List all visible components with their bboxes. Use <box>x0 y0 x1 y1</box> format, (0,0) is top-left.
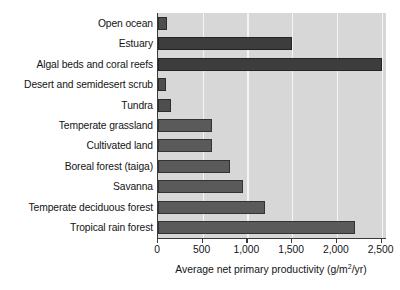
category-label: Desert and semidesert scrub <box>0 79 153 90</box>
x-axis: 05001,0001,5002,0002,500 <box>157 239 385 261</box>
category-label: Tropical rain forest <box>0 222 153 233</box>
bar-chart-figure: Open oceanEstuaryAlgal beds and coral re… <box>0 0 400 290</box>
x-tick-mark <box>291 239 292 243</box>
bar <box>158 139 212 152</box>
bar <box>158 201 265 214</box>
x-axis-title: Average net primary productivity (g/m2/y… <box>157 263 385 276</box>
bars-layer <box>158 13 386 238</box>
plot-area <box>157 13 386 239</box>
category-label: Cultivated land <box>0 140 153 151</box>
bar <box>158 17 167 30</box>
bar <box>158 221 355 234</box>
category-label: Open ocean <box>0 18 153 29</box>
category-label: Estuary <box>0 38 153 49</box>
category-label: Tundra <box>0 100 153 111</box>
category-label: Boreal forest (taiga) <box>0 161 153 172</box>
x-tick-label: 1,500 <box>266 244 316 256</box>
category-label: Temperate deciduous forest <box>0 202 153 213</box>
x-tick-label: 2,000 <box>311 244 361 256</box>
x-tick-label: 500 <box>177 244 227 256</box>
x-tick-mark <box>336 239 337 243</box>
x-tick-label: 0 <box>132 244 182 256</box>
x-tick-mark <box>157 239 158 243</box>
category-axis: Open oceanEstuaryAlgal beds and coral re… <box>0 13 153 238</box>
bar <box>158 119 212 132</box>
bar <box>158 78 166 91</box>
x-tick-label: 2,500 <box>356 244 400 256</box>
x-tick-mark <box>202 239 203 243</box>
bar <box>158 58 382 71</box>
category-label: Temperate grassland <box>0 120 153 131</box>
bar <box>158 160 230 173</box>
x-axis-title-superscript: 2 <box>348 263 352 270</box>
bar <box>158 99 171 112</box>
x-tick-label: 1,000 <box>221 244 271 256</box>
bar <box>158 37 292 50</box>
x-tick-mark <box>381 239 382 243</box>
bar <box>158 180 243 193</box>
category-label: Savanna <box>0 181 153 192</box>
x-tick-mark <box>246 239 247 243</box>
category-label: Algal beds and coral reefs <box>0 59 153 70</box>
